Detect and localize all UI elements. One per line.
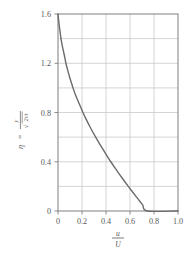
ytick-label-0: 0 <box>47 207 51 216</box>
xtick-label-0.2: 0.2 <box>77 217 87 226</box>
x-axis-denominator: U <box>115 240 121 249</box>
chart-figure: 1.6 1.2 0.8 0.4 0 0 0.2 0.4 0.6 0.8 1.0 … <box>0 0 195 254</box>
y-axis-equals-sign: = <box>16 134 25 140</box>
ytick-label-0.8: 0.8 <box>41 109 51 118</box>
xtick-label-0.4: 0.4 <box>101 217 111 226</box>
x-axis-numerator: u <box>116 229 120 238</box>
y-axis-numerator: y <box>12 119 19 123</box>
xtick-label-1.0: 1.0 <box>173 217 183 226</box>
xtick-label-0.6: 0.6 <box>125 217 135 226</box>
xtick-label-0.8: 0.8 <box>149 217 159 226</box>
y-axis-radical-sign: √ <box>22 124 29 128</box>
chart-background <box>0 0 195 254</box>
ytick-label-0.4: 0.4 <box>41 158 51 167</box>
ytick-label-1.6: 1.6 <box>41 10 51 19</box>
xtick-label-0: 0 <box>56 217 60 226</box>
ytick-label-1.2: 1.2 <box>41 59 51 68</box>
y-axis-eta-symbol: η <box>16 145 25 149</box>
y-axis-denominator: 2νt <box>22 113 29 121</box>
velocity-profile-chart: 1.6 1.2 0.8 0.4 0 0 0.2 0.4 0.6 0.8 1.0 … <box>0 0 195 254</box>
